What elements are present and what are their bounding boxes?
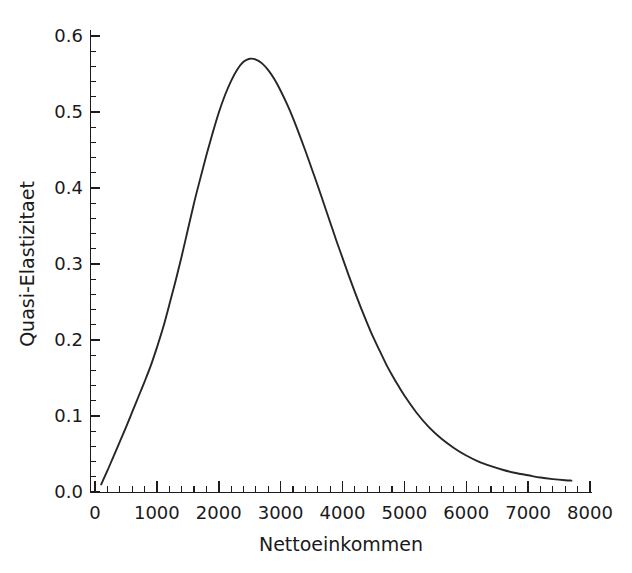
y-tick-label: 0.3 — [54, 253, 83, 274]
x-tick-label: 8000 — [567, 502, 613, 523]
quasi-elasticity-line-chart: 0.00.10.20.30.40.50.6 010002000300040005… — [0, 0, 632, 573]
y-axis-tick-labels: 0.00.10.20.30.40.50.6 — [54, 25, 83, 502]
x-axis-tick-labels: 010002000300040005000600070008000 — [89, 502, 613, 523]
x-tick-label: 1000 — [134, 502, 180, 523]
data-series-quasi-elastizitaet — [101, 59, 571, 485]
x-tick-label: 6000 — [443, 502, 489, 523]
y-tick-label: 0.4 — [54, 177, 83, 198]
x-tick-label: 3000 — [258, 502, 304, 523]
y-tick-label: 0.6 — [54, 25, 83, 46]
y-tick-label: 0.2 — [54, 329, 83, 350]
y-axis-major-ticks — [91, 36, 100, 492]
y-tick-label: 0.5 — [54, 101, 83, 122]
x-tick-label: 5000 — [381, 502, 427, 523]
x-tick-label: 2000 — [196, 502, 242, 523]
y-axis-title: Quasi-Elastizitaet — [16, 181, 38, 347]
y-tick-label: 0.0 — [54, 481, 83, 502]
chart-container: 0.00.10.20.30.40.50.6 010002000300040005… — [0, 0, 632, 573]
x-tick-label: 0 — [89, 502, 100, 523]
x-tick-label: 7000 — [505, 502, 551, 523]
x-axis-title: Nettoeinkommen — [259, 533, 423, 555]
x-tick-label: 4000 — [320, 502, 366, 523]
y-tick-label: 0.1 — [54, 405, 83, 426]
